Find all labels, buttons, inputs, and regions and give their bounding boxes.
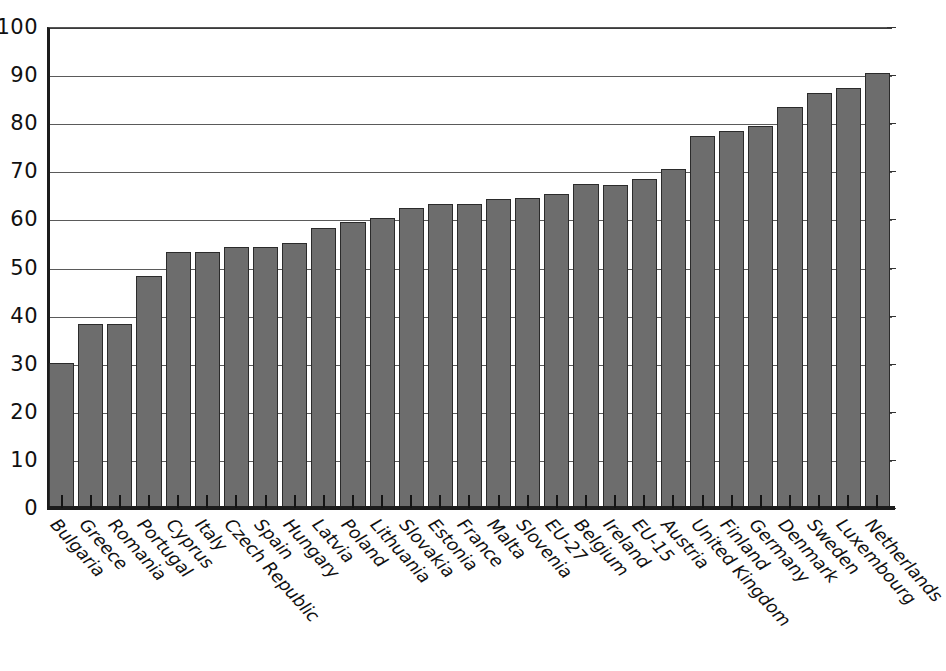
x-tick-mark — [702, 495, 704, 508]
y-tick-label-20: 20 — [10, 401, 38, 422]
x-tick-mark — [614, 495, 616, 508]
y-tick-label-90: 90 — [10, 65, 38, 86]
x-tick-mark — [206, 495, 208, 508]
y-tick-label-10: 10 — [10, 449, 38, 470]
bar-slot — [601, 27, 630, 508]
bar-slovakia[interactable] — [399, 208, 424, 508]
bar-slot — [280, 27, 309, 508]
y-tick-label-0: 0 — [24, 498, 38, 519]
bar-austria[interactable] — [661, 169, 686, 508]
x-tick-mark — [410, 495, 412, 508]
bar-ireland[interactable] — [603, 185, 628, 508]
bar-slot — [746, 27, 775, 508]
bar-eu-27[interactable] — [544, 194, 569, 508]
x-tick-mark — [323, 495, 325, 508]
bar-hungary[interactable] — [282, 243, 307, 509]
bar-slovenia[interactable] — [515, 198, 540, 508]
y-tick-label-70: 70 — [10, 161, 38, 182]
bar-italy[interactable] — [195, 252, 220, 508]
x-tick-mark — [672, 495, 674, 508]
bar-slot — [805, 27, 834, 508]
bar-slot — [397, 27, 426, 508]
x-tick-mark — [731, 495, 733, 508]
bar-germany[interactable] — [748, 126, 773, 508]
bar-slot — [717, 27, 746, 508]
bar-slot — [426, 27, 455, 508]
bar-slot — [775, 27, 804, 508]
bar-slot — [309, 27, 338, 508]
x-tick-mark — [789, 495, 791, 508]
bar-sweden[interactable] — [807, 93, 832, 508]
bar-estonia[interactable] — [428, 204, 453, 508]
x-tick-mark — [760, 495, 762, 508]
y-tick-label-80: 80 — [10, 113, 38, 134]
y-tick-label-50: 50 — [10, 257, 38, 278]
bar-france[interactable] — [457, 204, 482, 508]
bar-romania[interactable] — [107, 324, 132, 508]
bar-poland[interactable] — [340, 222, 365, 508]
bar-slot — [630, 27, 659, 508]
bar-spain[interactable] — [253, 247, 278, 508]
bar-eu-15[interactable] — [632, 179, 657, 508]
bar-lithuania[interactable] — [370, 218, 395, 508]
bar-slot — [688, 27, 717, 508]
x-tick-mark — [90, 495, 92, 508]
x-tick-mark — [527, 495, 529, 508]
bar-malta[interactable] — [486, 199, 511, 508]
bar-slot — [222, 27, 251, 508]
bar-slot — [834, 27, 863, 508]
bar-cyprus[interactable] — [166, 252, 191, 508]
bar-latvia[interactable] — [311, 228, 336, 508]
x-tick-mark — [643, 495, 645, 508]
x-tick-mark — [265, 495, 267, 508]
bar-luxembourg[interactable] — [836, 88, 861, 508]
x-tick-mark — [381, 495, 383, 508]
bar-slot — [542, 27, 571, 508]
x-tick-mark — [439, 495, 441, 508]
bar-slot — [251, 27, 280, 508]
bar-series — [47, 27, 892, 508]
bar-slot — [368, 27, 397, 508]
y-tick-label-60: 60 — [10, 209, 38, 230]
x-tick-mark — [498, 495, 500, 508]
x-tick-mark — [818, 495, 820, 508]
x-tick-mark — [119, 495, 121, 508]
bar-denmark[interactable] — [777, 107, 802, 508]
x-tick-mark — [294, 495, 296, 508]
bar-slot — [164, 27, 193, 508]
bar-slot — [134, 27, 163, 508]
bar-belgium[interactable] — [573, 184, 598, 508]
y-tick-label-30: 30 — [10, 353, 38, 374]
bar-slot — [455, 27, 484, 508]
x-tick-mark — [468, 495, 470, 508]
y-tick-label-40: 40 — [10, 305, 38, 326]
bar-slot — [105, 27, 134, 508]
bar-slot — [484, 27, 513, 508]
x-tick-mark — [585, 495, 587, 508]
bar-slot — [571, 27, 600, 508]
bar-slot — [863, 27, 892, 508]
x-tick-mark — [556, 495, 558, 508]
x-tick-mark — [235, 495, 237, 508]
bar-greece[interactable] — [78, 324, 103, 508]
bar-united-kingdom[interactable] — [690, 136, 715, 508]
x-tick-mark — [148, 495, 150, 508]
x-axis-line — [47, 506, 895, 510]
x-tick-mark — [61, 495, 63, 508]
bar-slot — [338, 27, 367, 508]
x-tick-mark — [847, 495, 849, 508]
y-tick-label-100: 100 — [0, 17, 38, 38]
bar-netherlands[interactable] — [865, 73, 890, 508]
bar-slot — [47, 27, 76, 508]
bar-finland[interactable] — [719, 131, 744, 508]
bar-slot — [513, 27, 542, 508]
bar-portugal[interactable] — [136, 276, 161, 508]
bar-czech-republic[interactable] — [224, 247, 249, 508]
x-tick-mark — [177, 495, 179, 508]
x-tick-mark — [352, 495, 354, 508]
x-tick-mark — [876, 495, 878, 508]
x-axis-category-labels: BulgariaGreeceRomaniaPortugalCyprusItaly… — [47, 512, 892, 671]
bar-slot — [659, 27, 688, 508]
bar-bulgaria[interactable] — [49, 363, 74, 508]
